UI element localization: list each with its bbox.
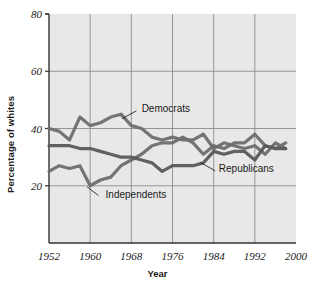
y-axis-tick-labels: 20406080 [31, 8, 43, 192]
y-tick-60: 60 [31, 65, 43, 77]
annotation-democrats: Democrats [142, 103, 190, 114]
x-tick-2000: 2000 [285, 250, 308, 262]
y-tick-20: 20 [31, 180, 43, 192]
x-tick-1992: 1992 [244, 250, 267, 262]
line-chart-plot: 20406080 1952196019681976198419922000 De… [0, 0, 315, 288]
y-tick-40: 40 [31, 123, 43, 135]
x-tick-1984: 1984 [203, 250, 226, 262]
x-tick-1976: 1976 [162, 250, 185, 262]
x-tick-1960: 1960 [79, 250, 102, 262]
x-axis-tick-labels: 1952196019681976198419922000 [38, 250, 308, 262]
x-tick-1952: 1952 [38, 250, 61, 262]
annotation-republicans: Republicans [219, 163, 274, 174]
annotation-independents: Independents [106, 189, 167, 200]
y-tick-80: 80 [31, 8, 43, 20]
x-tick-1968: 1968 [120, 250, 143, 262]
chart-figure: Percentage of whites Year 20406080 19521… [0, 0, 315, 288]
